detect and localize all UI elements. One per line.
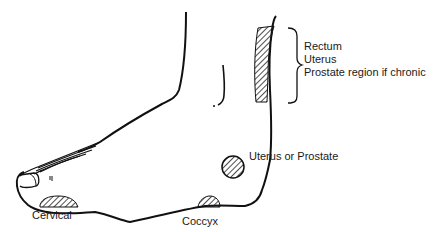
label-uterus: Uterus (304, 53, 336, 66)
label-prostate-region: Prostate region if chronic (304, 66, 426, 79)
bracket (288, 28, 302, 103)
ankle-bone-mark (213, 65, 224, 106)
foot-outline-drawing (0, 0, 439, 232)
rectum-uterus-prostate-area (255, 26, 274, 102)
label-uterus-or-prostate: Uterus or Prostate (249, 150, 338, 163)
label-cervical: Cervical (32, 209, 72, 222)
toe-tendons (20, 142, 100, 176)
cervical-area (40, 196, 78, 207)
uterus-prostate-point (222, 156, 244, 178)
coccyx-area (198, 196, 220, 207)
dorsum-outline (78, 12, 186, 152)
label-rectum: Rectum (304, 40, 342, 53)
sole-outline (70, 16, 276, 222)
foot-diagram: Rectum Uterus Prostate region if chronic… (0, 0, 439, 232)
label-coccyx: Coccyx (182, 215, 218, 228)
toe-crease (30, 170, 52, 186)
